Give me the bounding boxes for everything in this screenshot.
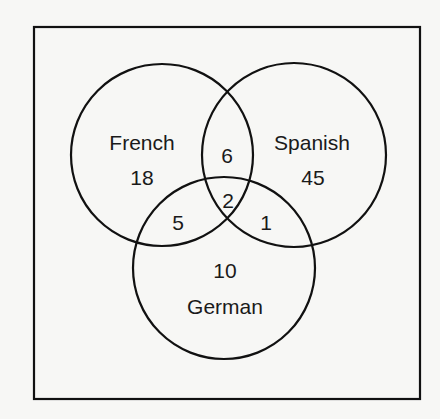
french-only-count: 18: [130, 166, 153, 189]
german-label: German: [187, 295, 263, 318]
all-three-count: 2: [222, 189, 234, 212]
french-label: French: [109, 131, 174, 154]
french-spanish-count: 6: [221, 144, 233, 167]
spanish-only-count: 45: [301, 166, 324, 189]
french-german-count: 5: [172, 211, 184, 234]
spanish-german-count: 1: [260, 211, 272, 234]
venn-diagram: French 18 Spanish 45 10 German 6 2 5 1: [0, 0, 440, 419]
german-only-count: 10: [213, 259, 236, 282]
spanish-label: Spanish: [274, 131, 350, 154]
